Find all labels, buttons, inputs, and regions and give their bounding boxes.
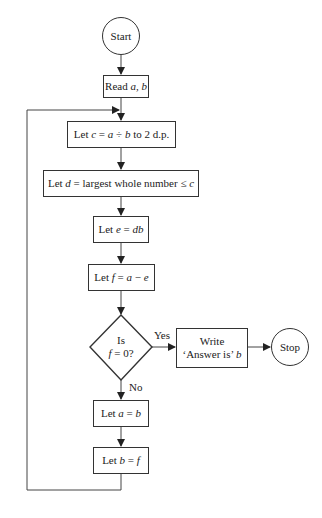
write-node: Write ‘Answer is’ b xyxy=(176,328,248,368)
stop-label: Stop xyxy=(280,341,300,354)
read-label: Read a, b xyxy=(105,80,147,93)
step-f-label: Let f = a − e xyxy=(94,271,148,284)
step-f-node: Let f = a − e xyxy=(88,264,155,291)
step-e-node: Let e = db xyxy=(93,216,149,243)
step-d-label: Let d = largest whole number ≤ c xyxy=(48,177,194,190)
step-b-label: Let b = f xyxy=(102,454,140,467)
stop-node: Stop xyxy=(271,328,309,366)
start-label: Start xyxy=(111,30,132,43)
flowchart-connectors xyxy=(0,0,322,518)
step-e-label: Let e = db xyxy=(98,223,143,236)
decision-label: Is f = 0? xyxy=(96,330,146,364)
step-a-node: Let a = b xyxy=(93,400,149,427)
read-node: Read a, b xyxy=(103,75,149,98)
no-label: No xyxy=(129,381,142,393)
step-c-label: Let c = a ÷ b to 2 d.p. xyxy=(74,128,169,141)
step-b-node: Let b = f xyxy=(93,447,149,474)
yes-label: Yes xyxy=(154,329,170,341)
step-a-label: Let a = b xyxy=(101,407,141,420)
start-node: Start xyxy=(102,17,140,55)
step-d-node: Let d = largest whole number ≤ c xyxy=(43,170,199,197)
step-c-node: Let c = a ÷ b to 2 d.p. xyxy=(67,121,176,148)
